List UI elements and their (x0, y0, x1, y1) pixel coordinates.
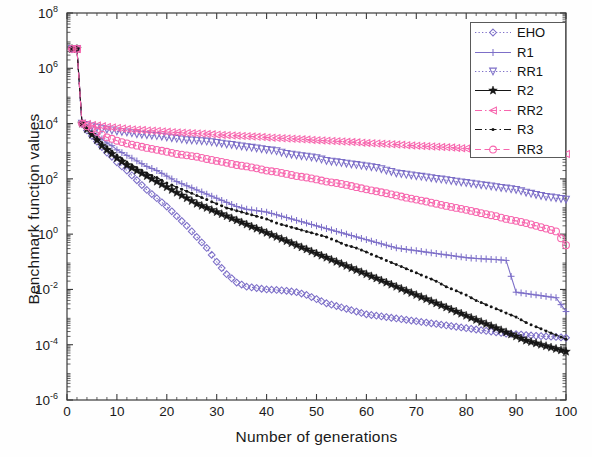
y-tick-label: 10-6 (12, 391, 58, 408)
legend-label: EHO (515, 25, 545, 40)
legend-dot-icon (471, 120, 515, 139)
legend-item-r3[interactable]: R3 (471, 120, 565, 139)
legend-triangle-down-icon (471, 62, 515, 81)
y-tick-label: 10-4 (12, 336, 58, 353)
y-tick-label: 108 (12, 4, 58, 21)
x-tick-label: 60 (346, 404, 386, 419)
x-tick-label: 50 (297, 404, 337, 419)
x-tick-label: 70 (396, 404, 436, 419)
legend-circle-icon (471, 140, 515, 159)
legend-label: RR1 (515, 64, 543, 79)
x-axis-label: Number of generations (67, 428, 566, 446)
legend-item-r2[interactable]: R2 (471, 81, 565, 100)
y-tick-label: 100 (12, 225, 58, 242)
x-tick-label: 10 (97, 404, 137, 419)
legend-label: RR3 (515, 142, 543, 157)
legend-star-icon (471, 81, 515, 100)
legend-item-rr1[interactable]: RR1 (471, 62, 565, 81)
legend-item-rr3[interactable]: RR3 (471, 139, 565, 158)
y-tick-label: 106 (12, 59, 58, 76)
x-tick-label: 40 (247, 404, 287, 419)
y-tick-label: 10-2 (12, 280, 58, 297)
legend-item-eho[interactable]: EHO (471, 23, 565, 42)
legend-label: RR2 (515, 103, 543, 118)
legend-label: R3 (515, 122, 534, 137)
legend-item-rr2[interactable]: RR2 (471, 101, 565, 120)
legend-label: R1 (515, 45, 534, 60)
legend-item-r1[interactable]: R1 (471, 42, 565, 61)
x-tick-label: 90 (496, 404, 536, 419)
x-tick-label: 20 (147, 404, 187, 419)
legend-triangle-left-icon (471, 101, 515, 120)
legend-plus-icon (471, 43, 515, 62)
legend: EHOR1RR1R2RR2R3RR3 (470, 22, 566, 158)
y-tick-label: 102 (12, 170, 58, 187)
x-tick-label: 100 (546, 404, 586, 419)
x-tick-label: 30 (197, 404, 237, 419)
legend-diamond-icon (471, 23, 515, 42)
y-tick-label: 104 (12, 115, 58, 132)
chart-figure: Benchmark function values Number of gene… (0, 0, 592, 457)
x-tick-label: 80 (446, 404, 486, 419)
legend-label: R2 (515, 83, 534, 98)
